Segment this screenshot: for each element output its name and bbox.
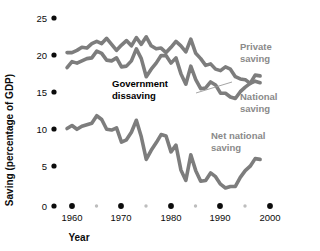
x-axis-labels: 1960 1970 1980 1990 2000	[61, 212, 280, 223]
series-label-national-saving-line2: saving	[240, 103, 270, 114]
y-axis-ticks	[51, 15, 56, 208]
annotation-government-dissaving: Government dissaving	[112, 78, 169, 101]
y-tick-dot-20	[51, 52, 56, 57]
y-tick-label-10: 10	[36, 124, 47, 135]
x-axis-ticks	[69, 203, 273, 209]
y-tick-label-25: 25	[36, 13, 47, 24]
x-axis-title: Year	[68, 232, 89, 243]
x-tick-dot-1960	[69, 203, 75, 209]
y-axis-title: Saving (percentage of GDP)	[4, 74, 15, 206]
series-label-net-national-saving-line2: saving	[211, 142, 241, 153]
x-tick-dot-1965	[95, 204, 98, 207]
series-label-net-national-saving-line1: Net national	[211, 130, 265, 141]
series-label-national-saving: National saving	[240, 91, 277, 114]
series-label-private-saving-line1: Private	[240, 41, 272, 52]
x-tick-label-1980: 1980	[160, 212, 181, 223]
x-tick-dot-1970	[118, 203, 124, 209]
x-tick-dot-1985	[194, 204, 197, 207]
savings-line-chart: 25 20 15 10 5 0 1960 1970 1980 1990 2000	[0, 0, 320, 251]
series-label-private-saving-line2: saving	[240, 53, 270, 64]
x-tick-dot-2000	[267, 203, 273, 209]
y-tick-label-15: 15	[36, 87, 47, 98]
x-tick-dot-1995	[243, 204, 246, 207]
annotation-government-dissaving-line1: Government	[112, 78, 169, 89]
series-label-national-saving-line1: National	[240, 91, 277, 102]
x-tick-dot-1975	[144, 204, 147, 207]
data-series-group	[67, 37, 260, 188]
x-tick-dot-1990	[217, 203, 223, 209]
y-tick-dot-10	[51, 126, 56, 131]
x-tick-label-1970: 1970	[110, 212, 131, 223]
x-tick-label-1990: 1990	[209, 212, 230, 223]
annotation-government-dissaving-line2: dissaving	[112, 90, 156, 101]
y-axis-labels: 25 20 15 10 5 0	[36, 13, 47, 212]
series-path-private-saving	[67, 37, 260, 84]
y-tick-label-0: 0	[42, 201, 47, 212]
series-label-net-national-saving: Net national saving	[211, 130, 265, 153]
y-tick-dot-5	[51, 163, 56, 168]
series-path-national-saving	[67, 49, 260, 99]
chart-container: 25 20 15 10 5 0 1960 1970 1980 1990 2000	[0, 0, 320, 251]
x-tick-label-2000: 2000	[259, 212, 280, 223]
y-tick-dot-25	[51, 15, 56, 20]
x-tick-dot-1980	[168, 203, 174, 209]
y-tick-label-5: 5	[42, 161, 47, 172]
x-tick-label-1960: 1960	[61, 212, 82, 223]
y-tick-label-20: 20	[36, 50, 47, 61]
series-label-private-saving: Private saving	[240, 41, 272, 64]
y-tick-dot-0	[51, 203, 56, 208]
y-tick-dot-15	[51, 89, 56, 94]
